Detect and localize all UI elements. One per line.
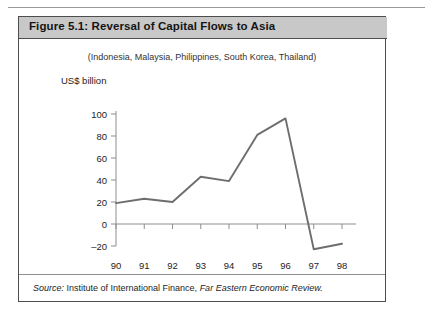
y-axis-tick-label: 20 [96, 197, 107, 208]
x-axis-tick-label: 97 [308, 260, 319, 271]
figure-title: Figure 5.1: Reversal of Capital Flows to… [29, 20, 275, 32]
x-axis-tick-label: 90 [111, 260, 122, 271]
data-series-line [116, 118, 342, 249]
x-axis-tick-label: 91 [139, 260, 150, 271]
y-axis-tick-label: 60 [96, 153, 107, 164]
y-axis-tick-label: 100 [91, 109, 107, 120]
y-axis-tick-label: 80 [96, 131, 107, 142]
x-axis-tick-label: 95 [252, 260, 263, 271]
x-axis-tick-label: 92 [167, 260, 178, 271]
top-divider [8, 7, 425, 8]
x-axis-tick-label: 94 [224, 260, 235, 271]
source-note: Source: Institute of International Finan… [33, 283, 323, 293]
y-axis-tick-label: 0 [102, 219, 107, 230]
figure-page: Figure 5.1: Reversal of Capital Flows to… [0, 0, 433, 321]
source-journal: Far Eastern Economic Review. [200, 283, 323, 293]
source-divider [19, 274, 385, 275]
x-axis-tick-label: 98 [337, 260, 348, 271]
x-axis-tick-label: 96 [280, 260, 291, 271]
figure-box: Figure 5.1: Reversal of Capital Flows to… [18, 16, 386, 302]
y-axis-tick-label: –20 [91, 241, 107, 252]
chart-area: (Indonesia, Malaysia, Philippines, South… [19, 39, 385, 279]
source-prefix: Source: [33, 283, 64, 293]
line-chart-plot: –20020406080100909192939495969798 [19, 39, 385, 279]
x-axis-tick-label: 93 [195, 260, 206, 271]
figure-header-bar: Figure 5.1: Reversal of Capital Flows to… [19, 17, 387, 39]
source-publisher: Institute of International Finance, [64, 283, 200, 293]
y-axis-tick-label: 40 [96, 175, 107, 186]
